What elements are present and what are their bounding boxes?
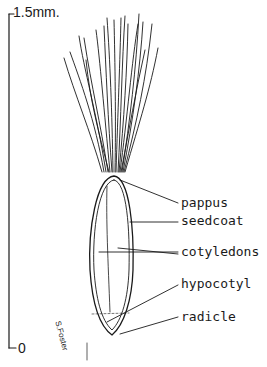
label-cotyledons: cotyledons	[181, 244, 259, 259]
seed-diagram: 1.5mm. 0 pappus seedcoat cotyledons hypo…	[0, 0, 267, 367]
scale-bar	[9, 14, 16, 348]
cotyledon-divider	[107, 186, 110, 312]
pappus-bristles	[64, 14, 158, 172]
scale-bottom-label: 0	[18, 340, 26, 356]
scale-top-label: 1.5mm.	[13, 4, 60, 20]
label-seedcoat: seedcoat	[181, 213, 244, 228]
seedcoat-outline	[90, 176, 133, 335]
label-hypocotyl: hypocotyl	[181, 276, 251, 291]
label-radicle: radicle	[181, 309, 236, 324]
leader-lines	[99, 180, 178, 334]
label-pappus: pappus	[181, 195, 228, 210]
